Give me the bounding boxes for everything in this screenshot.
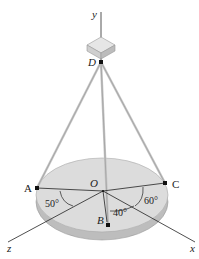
label-point-c: C	[172, 179, 179, 190]
label-point-o: O	[90, 178, 98, 189]
origin-marker	[102, 190, 104, 192]
label-point-d: D	[88, 57, 96, 68]
point-b-marker	[106, 223, 110, 227]
label-x-axis: x	[190, 243, 195, 254]
angle-label-60: 60°	[144, 196, 158, 206]
point-d-marker	[99, 60, 103, 64]
point-c-marker	[163, 181, 167, 185]
label-point-a: A	[24, 183, 32, 194]
label-point-b: B	[97, 215, 104, 226]
label-z-axis: z	[7, 243, 11, 254]
point-a-marker	[35, 186, 39, 190]
angle-label-50: 50°	[45, 199, 59, 209]
angle-label-40: 40°	[113, 208, 127, 218]
label-y-axis: y	[92, 9, 97, 20]
